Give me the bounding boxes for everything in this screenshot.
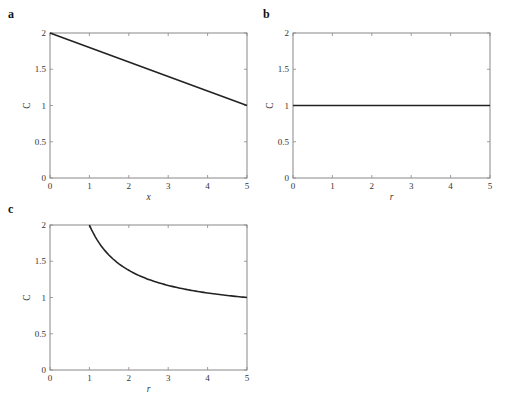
y-tick-label: 1.5 [278,64,290,74]
x-tick-label: 4 [448,181,453,191]
x-axis-label: x [145,192,151,202]
x-tick-label: 4 [205,181,210,191]
y-axis-label: C [22,102,32,108]
panel-label: c [8,202,14,216]
y-tick-label: 1 [42,293,47,303]
data-line [50,33,247,106]
y-tick-label: 2 [42,220,47,230]
x-tick-label: 2 [127,373,132,383]
plot-frame [50,33,247,178]
x-tick-label: 2 [127,181,132,191]
y-tick-label: 1 [42,101,47,111]
x-axis-label: r [390,192,394,202]
x-tick-label: 5 [245,373,250,383]
x-tick-label: 3 [166,181,171,191]
figure: a01234500.511.52xCb01234500.511.52rCc012… [0,0,508,408]
y-tick-label: 2 [285,28,290,38]
panel-c: c01234500.511.52rC [8,202,250,394]
panel-label: b [263,7,270,21]
y-tick-label: 0 [285,173,290,183]
y-tick-label: 1.5 [35,256,47,266]
x-tick-label: 0 [291,181,296,191]
data-line [89,225,247,298]
x-tick-label: 3 [166,373,171,383]
y-axis-label: C [22,294,32,300]
y-tick-label: 0.5 [35,137,47,147]
y-tick-label: 1.5 [35,64,47,74]
y-axis-label: C [265,102,275,108]
x-tick-label: 2 [370,181,375,191]
y-tick-label: 0.5 [278,137,290,147]
x-tick-label: 0 [48,181,53,191]
y-tick-label: 0 [42,173,47,183]
x-axis-label: r [147,384,151,394]
x-tick-label: 3 [409,181,414,191]
x-tick-label: 1 [87,181,92,191]
panel-a: a01234500.511.52xC [8,7,250,202]
x-tick-label: 1 [87,373,92,383]
plot-frame [50,225,247,370]
panel-b: b01234500.511.52rC [263,7,493,202]
y-tick-label: 0 [42,365,47,375]
panel-label: a [8,7,14,21]
x-tick-label: 5 [245,181,250,191]
x-tick-label: 1 [330,181,335,191]
y-tick-label: 1 [285,101,290,111]
x-tick-label: 4 [205,373,210,383]
x-tick-label: 5 [488,181,493,191]
y-tick-label: 2 [42,28,47,38]
x-tick-label: 0 [48,373,53,383]
y-tick-label: 0.5 [35,329,47,339]
